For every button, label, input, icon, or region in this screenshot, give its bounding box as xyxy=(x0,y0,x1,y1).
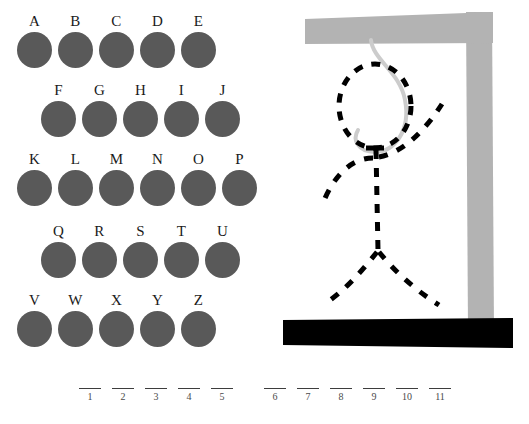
answer-slot-9[interactable]: 9 xyxy=(362,382,386,402)
letter-disc-h[interactable] xyxy=(123,101,158,137)
letter-disc-d[interactable] xyxy=(140,32,175,68)
letter-disc-l[interactable] xyxy=(58,170,93,206)
letter-button-h[interactable]: H xyxy=(120,83,161,137)
hangman-board: ABCDEFGHIJKLMNOPQRSTUVWXYZ xyxy=(0,0,529,424)
answer-slot-index-7: 7 xyxy=(306,391,311,402)
answer-slot-2[interactable]: 2 xyxy=(111,382,135,402)
letter-disc-c[interactable] xyxy=(99,32,134,68)
letter-disc-j[interactable] xyxy=(205,101,240,137)
alphabet-selector: ABCDEFGHIJKLMNOPQRSTUVWXYZ xyxy=(0,0,272,370)
letter-button-p[interactable]: P xyxy=(219,152,260,206)
answer-slot-line-3 xyxy=(145,388,167,389)
answer-slot-line-4 xyxy=(178,388,200,389)
letter-disc-e[interactable] xyxy=(181,32,216,68)
letter-disc-p[interactable] xyxy=(222,170,257,206)
hangman-left-leg xyxy=(326,252,377,303)
answer-slot-line-1 xyxy=(79,388,101,389)
letter-disc-i[interactable] xyxy=(164,101,199,137)
answer-slot-line-2 xyxy=(112,388,134,389)
letter-label-p: P xyxy=(235,152,244,168)
letter-disc-n[interactable] xyxy=(140,170,175,206)
letter-label-c: C xyxy=(111,14,121,30)
answer-slot-5[interactable]: 5 xyxy=(210,382,234,402)
answer-slot-line-7 xyxy=(297,388,319,389)
letter-label-g: G xyxy=(94,83,105,99)
letter-button-s[interactable]: S xyxy=(120,224,161,278)
letter-disc-x[interactable] xyxy=(99,311,134,347)
letter-button-b[interactable]: B xyxy=(55,14,96,68)
letter-button-k[interactable]: K xyxy=(14,152,55,206)
letter-button-u[interactable]: U xyxy=(202,224,243,278)
answer-slot-line-6 xyxy=(264,388,286,389)
letter-disc-u[interactable] xyxy=(205,242,240,278)
answer-slot-8[interactable]: 8 xyxy=(329,382,353,402)
letter-disc-b[interactable] xyxy=(58,32,93,68)
gallows-drawing xyxy=(272,0,529,370)
letter-button-z[interactable]: Z xyxy=(178,293,219,347)
letter-button-l[interactable]: L xyxy=(55,152,96,206)
letter-label-r: R xyxy=(94,224,104,240)
answer-slot-line-8 xyxy=(330,388,352,389)
answer-slot-line-9 xyxy=(363,388,385,389)
letter-disc-q[interactable] xyxy=(41,242,76,278)
letter-button-y[interactable]: Y xyxy=(137,293,178,347)
letter-button-q[interactable]: Q xyxy=(38,224,79,278)
letter-button-m[interactable]: M xyxy=(96,152,137,206)
alphabet-row-5: VWXYZ xyxy=(14,293,219,347)
letter-label-f: F xyxy=(54,83,63,99)
letter-button-f[interactable]: F xyxy=(38,83,79,137)
letter-disc-t[interactable] xyxy=(164,242,199,278)
letter-disc-w[interactable] xyxy=(58,311,93,347)
letter-label-y: Y xyxy=(152,293,163,309)
letter-button-j[interactable]: J xyxy=(202,83,243,137)
letter-disc-z[interactable] xyxy=(181,311,216,347)
answer-slot-7[interactable]: 7 xyxy=(296,382,320,402)
answer-slot-line-11 xyxy=(429,388,451,389)
letter-button-r[interactable]: R xyxy=(79,224,120,278)
hangman-gallows xyxy=(272,0,529,370)
letter-button-x[interactable]: X xyxy=(96,293,137,347)
answer-slot-index-9: 9 xyxy=(372,391,377,402)
letter-label-v: V xyxy=(29,293,40,309)
letter-button-e[interactable]: E xyxy=(178,14,219,68)
letter-label-w: W xyxy=(68,293,82,309)
answer-slot-index-3: 3 xyxy=(154,391,159,402)
answer-word-1: 12345 xyxy=(78,382,243,402)
letter-disc-y[interactable] xyxy=(140,311,175,347)
letter-button-a[interactable]: A xyxy=(14,14,55,68)
letter-disc-s[interactable] xyxy=(123,242,158,278)
letter-button-n[interactable]: N xyxy=(137,152,178,206)
letter-label-s: S xyxy=(136,224,145,240)
letter-disc-v[interactable] xyxy=(17,311,52,347)
letter-button-c[interactable]: C xyxy=(96,14,137,68)
letter-button-w[interactable]: W xyxy=(55,293,96,347)
letter-disc-r[interactable] xyxy=(82,242,117,278)
answer-slot-10[interactable]: 10 xyxy=(395,382,419,402)
letter-label-u: U xyxy=(217,224,228,240)
letter-button-d[interactable]: D xyxy=(137,14,178,68)
letter-disc-a[interactable] xyxy=(17,32,52,68)
gallows-beam xyxy=(305,12,493,44)
letter-disc-g[interactable] xyxy=(82,101,117,137)
letter-label-k: K xyxy=(29,152,40,168)
answer-slot-1[interactable]: 1 xyxy=(78,382,102,402)
answer-slot-index-2: 2 xyxy=(121,391,126,402)
letter-button-o[interactable]: O xyxy=(178,152,219,206)
letter-disc-f[interactable] xyxy=(41,101,76,137)
letter-button-t[interactable]: T xyxy=(161,224,202,278)
answer-slot-3[interactable]: 3 xyxy=(144,382,168,402)
answer-slot-11[interactable]: 11 xyxy=(428,382,452,402)
answer-slot-4[interactable]: 4 xyxy=(177,382,201,402)
letter-label-a: A xyxy=(29,14,40,30)
letter-button-v[interactable]: V xyxy=(14,293,55,347)
letter-label-d: D xyxy=(152,14,163,30)
letter-disc-o[interactable] xyxy=(181,170,216,206)
letter-label-t: T xyxy=(177,224,186,240)
letter-disc-m[interactable] xyxy=(99,170,134,206)
letter-label-b: B xyxy=(70,14,80,30)
answer-slot-6[interactable]: 6 xyxy=(263,382,287,402)
answer-slot-index-4: 4 xyxy=(187,391,192,402)
letter-button-g[interactable]: G xyxy=(79,83,120,137)
letter-disc-k[interactable] xyxy=(17,170,52,206)
letter-button-i[interactable]: I xyxy=(161,83,202,137)
